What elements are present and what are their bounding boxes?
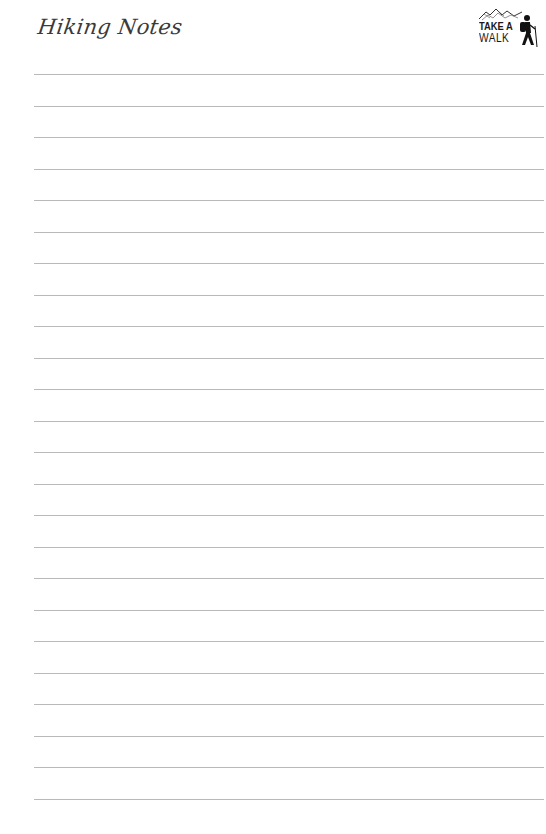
ruled-line	[34, 232, 544, 233]
ruled-line	[34, 389, 544, 390]
ruled-line	[34, 673, 544, 674]
ruled-line	[34, 106, 544, 107]
ruled-line	[34, 74, 544, 75]
ruled-line	[34, 767, 544, 768]
ruled-line	[34, 452, 544, 453]
ruled-line	[34, 547, 544, 548]
ruled-line	[34, 578, 544, 579]
ruled-line	[34, 641, 544, 642]
ruled-line	[34, 358, 544, 359]
ruled-line	[34, 704, 544, 705]
ruled-line	[34, 200, 544, 201]
ruled-line	[34, 421, 544, 422]
ruled-line	[34, 736, 544, 737]
ruled-line	[34, 799, 544, 800]
ruled-line	[34, 169, 544, 170]
ruled-line	[34, 326, 544, 327]
ruled-line	[34, 610, 544, 611]
ruled-line	[34, 295, 544, 296]
ruled-lines	[34, 0, 546, 834]
ruled-line	[34, 263, 544, 264]
ruled-line	[34, 484, 544, 485]
ruled-line	[34, 137, 544, 138]
ruled-line	[34, 515, 544, 516]
